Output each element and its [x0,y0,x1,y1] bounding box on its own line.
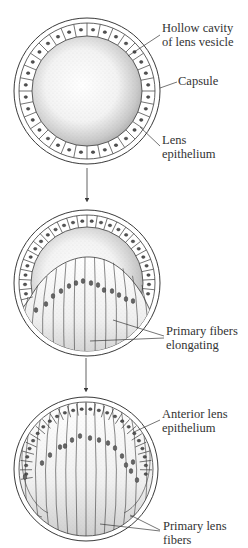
nucleus [140,61,143,64]
nucleus [67,31,70,34]
nucleus [58,445,62,450]
nucleus [34,308,38,313]
nucleus [137,439,140,442]
nucleus [26,456,29,459]
cell-wall [118,34,125,45]
cell-wall [104,218,108,229]
nucleus [91,151,94,154]
label-primary-fibers-elongating: Primary fibers elongating [166,324,238,352]
nucleus [31,61,34,64]
nucleus [124,137,127,140]
nucleus [103,31,106,34]
nucleus [29,256,32,259]
label-capsule: Capsule [178,74,218,88]
cell-wall [133,122,144,129]
cell-wall [24,65,36,70]
nucleus [117,293,121,298]
nucleus [56,144,59,147]
cell-wall [61,28,66,40]
nucleus [114,144,117,147]
nucleus [129,469,133,474]
nucleus [102,288,106,293]
nucleus [124,463,128,468]
nucleus [70,438,74,443]
stage-2-fibers-elongating [14,210,164,362]
nucleus [81,279,85,284]
nucleus [131,460,135,465]
nucleus [113,415,116,418]
label-hollow-cavity: Hollow cavity of lens vesicle [162,21,234,49]
cell-wall [77,216,79,228]
nucleus [106,441,110,446]
cell-wall [95,216,97,228]
nucleus [38,51,41,54]
nucleus [56,35,59,38]
nucleus [127,425,130,428]
nucleus [23,283,26,286]
nucleus [91,28,94,31]
cell-wall [108,142,113,154]
nucleus [24,84,27,87]
nucleus [99,221,102,224]
cell-wall [24,112,36,117]
nucleus [147,274,150,277]
nucleus [105,411,108,414]
nucleus [51,294,55,299]
cell-wall [74,24,77,37]
cell-wall [141,78,154,81]
nucleus [124,234,127,237]
nucleus [26,264,29,267]
cell-wall [143,279,155,280]
nucleus [140,119,143,122]
nucleus [147,96,150,99]
cell-wall [138,65,150,70]
cell-wall [112,222,117,233]
cell-wall [108,28,113,40]
nucleus [89,281,93,286]
nucleus [59,289,63,294]
nucleus [24,292,27,295]
nucleus [81,220,84,223]
nucleus [113,446,117,451]
nucleus [143,456,146,459]
cell-wall [141,102,154,105]
nucleus [67,148,70,151]
stage-1-lens-vesicle [14,18,177,164]
cell-wall [20,78,33,81]
nucleus [48,453,52,458]
nucleus [28,447,31,450]
cell-wall [28,250,38,256]
nucleus [88,436,92,441]
cell-wall [143,289,155,290]
nucleus [46,42,49,45]
nucleus [26,107,29,110]
nucleus [114,35,117,38]
label-primary-lens-fibers: Primary lens fibers [163,519,227,547]
cell-wall [142,269,154,271]
nucleus [121,420,124,423]
cell-wall [138,112,150,117]
cell-wall [20,269,32,271]
cell-wall [61,142,66,154]
nucleus [144,464,147,467]
nucleus [71,221,74,224]
nucleus [133,432,136,435]
nucleus [48,420,51,423]
nucleus [55,415,58,418]
leader-capsule [160,82,177,88]
nucleus [79,28,82,31]
cell-wall [133,53,144,60]
nucleus [39,240,42,243]
nucleus [79,151,82,154]
nucleus [103,148,106,151]
cell-wall [139,259,150,263]
cell-wall [20,102,33,105]
cell-wall [19,279,31,280]
nucleus [74,281,78,286]
cell-wall [67,218,71,229]
stage-3-mature-lens [10,397,162,541]
nucleus [46,234,49,237]
cell-wall [30,53,41,60]
nucleus [54,228,57,231]
nucleus [124,42,127,45]
